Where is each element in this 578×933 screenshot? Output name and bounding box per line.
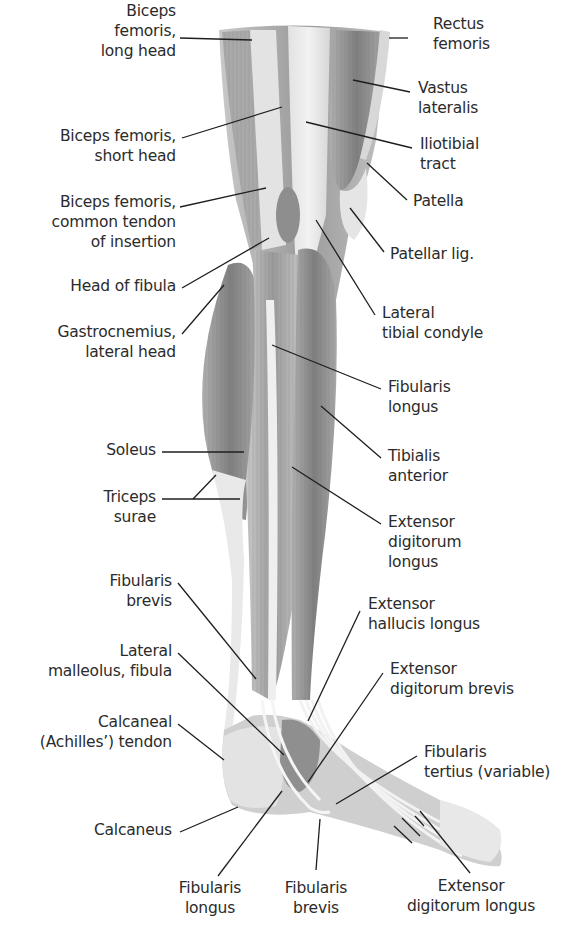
- label-fibularis-brevis-left: Fibularis brevis: [109, 571, 172, 611]
- leader-triceps-surae-diag: [193, 475, 216, 499]
- label-rectus-femoris: Rectus femoris: [433, 14, 490, 54]
- label-lateral-tibial-condyle: Lateral tibial condyle: [382, 303, 483, 343]
- label-extensor-digitorum-brevis: Extensor digitorum brevis: [390, 659, 514, 699]
- label-head-of-fibula: Head of fibula: [70, 276, 176, 296]
- lower-leg-group: [202, 249, 337, 732]
- label-triceps-surae: Triceps surae: [104, 487, 156, 527]
- leader-ehl: [308, 611, 360, 721]
- leader-fibularis-brevis-bottom: [316, 819, 320, 870]
- label-iliotibial-tract: Iliotibial tract: [420, 134, 479, 174]
- label-patellar-lig: Patellar lig.: [390, 244, 474, 264]
- leader-calcaneus: [180, 807, 238, 832]
- label-calcaneal-achilles-tendon: Calcaneal (Achilles’) tendon: [40, 712, 172, 752]
- label-vastus-lateralis: Vastus lateralis: [418, 78, 478, 118]
- label-biceps-femoris-long-head: Biceps femoris, long head: [101, 1, 176, 61]
- leader-calcaneal-tendon: [178, 724, 224, 760]
- label-extensor-hallucis-longus: Extensor hallucis longus: [368, 594, 480, 634]
- label-fibularis-tertius: Fibularis tertius (variable): [424, 742, 550, 782]
- label-biceps-femoris-common-tendon: Biceps femoris, common tendon of inserti…: [52, 192, 176, 252]
- label-lateral-malleolus-fibula: Lateral malleolus, fibula: [48, 641, 172, 681]
- leader-patella: [367, 163, 407, 200]
- label-extensor-digitorum-longus-right: Extensor digitorum longus: [388, 512, 461, 572]
- label-calcaneus: Calcaneus: [94, 820, 172, 840]
- label-extensor-digitorum-longus-bottom: Extensor digitorum longus: [396, 876, 546, 916]
- label-patella: Patella: [413, 191, 463, 211]
- label-soleus: Soleus: [106, 440, 156, 460]
- anatomy-diagram: Biceps femoris, long head Biceps femoris…: [0, 0, 578, 933]
- label-fibularis-longus-bottom: Fibularis longus: [170, 878, 250, 918]
- label-tibialis-anterior: Tibialis anterior: [388, 446, 448, 486]
- label-biceps-femoris-short-head: Biceps femoris, short head: [60, 126, 176, 166]
- label-gastrocnemius-lateral-head: Gastrocnemius, lateral head: [58, 322, 177, 362]
- foot-group: [222, 700, 502, 866]
- label-fibularis-brevis-bottom: Fibularis brevis: [276, 878, 356, 918]
- label-fibularis-longus-right: Fibularis longus: [388, 377, 451, 417]
